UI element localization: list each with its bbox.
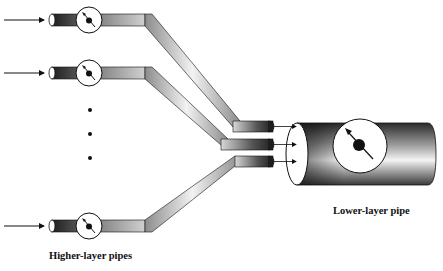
gauge-icon (333, 119, 387, 173)
gauge-icon (76, 60, 102, 86)
higher-layer-pipe-n (4, 156, 274, 239)
gauge-icon (76, 7, 102, 33)
gauge-icon (76, 213, 102, 239)
higher-layer-pipes-label: Higher-layer pipes (49, 250, 132, 261)
pipe-inlet (49, 220, 55, 232)
pipe-inlet (49, 14, 55, 26)
lower-layer-pipe-label: Lower-layer pipe (333, 205, 410, 216)
pipe-inlet (49, 67, 55, 79)
lower-layer-pipe (274, 119, 436, 185)
ellipsis-dots (88, 108, 92, 160)
higher-layer-pipe-2 (4, 60, 274, 150)
pipe-inlet (286, 123, 308, 185)
multiplexing-diagram (0, 0, 443, 271)
